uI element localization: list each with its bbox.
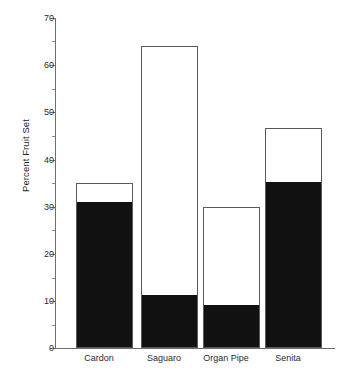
y-tick-label-60: 60 — [30, 61, 54, 70]
bar-organ-pipe-fill — [204, 305, 259, 347]
bar-senita-fill — [266, 182, 321, 347]
bar-saguaro[interactable] — [141, 46, 198, 348]
bar-saguaro-fill — [142, 295, 197, 347]
y-tick-label-70: 70 — [30, 14, 54, 23]
plot-area — [55, 18, 325, 348]
y-tick-label-10: 10 — [30, 297, 54, 306]
bar-organ-pipe[interactable] — [203, 207, 260, 348]
y-tick-label-0: 0 — [30, 344, 54, 353]
y-tick-label-40: 40 — [30, 156, 54, 165]
y-axis-title: Percent Fruit Set — [20, 91, 31, 221]
x-axis-line — [55, 348, 335, 349]
y-tick-label-50: 50 — [30, 108, 54, 117]
bar-cardon-fill — [77, 202, 132, 347]
bar-cardon[interactable] — [76, 183, 133, 348]
y-tick-label-30: 30 — [30, 203, 54, 212]
y-tick-label-20: 20 — [30, 250, 54, 259]
bar-chart: Percent Fruit Set 70 60 50 40 30 20 10 0 — [0, 0, 345, 376]
x-label-senita: Senita — [245, 353, 331, 363]
bar-senita[interactable] — [265, 128, 322, 348]
